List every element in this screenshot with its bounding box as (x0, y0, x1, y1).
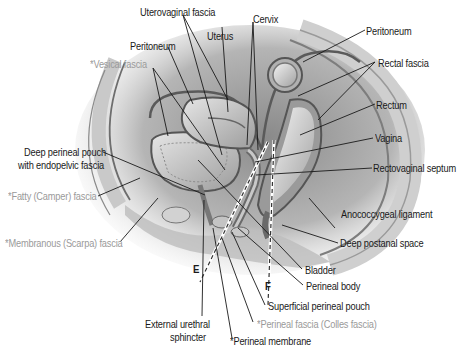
label-uterus: Uterus (207, 30, 233, 42)
diagram-stage: Uterovaginal fascia Cervix Uterus Perito… (0, 0, 459, 354)
label-anococcygeal-ligament: Anococcygeal ligament (341, 208, 432, 220)
label-fatty-camper-fascia: *Fatty (Camper) fascia (8, 190, 97, 202)
label-membranous-scarpa-fascia: *Membranous (Scarpa) fascia (5, 237, 122, 249)
label-cervix: Cervix (253, 13, 278, 25)
label-rectal-fascia: Rectal fascia (378, 57, 429, 69)
label-vagina: Vagina (375, 132, 402, 144)
label-deep-postanal-space: Deep postanal space (340, 237, 423, 249)
label-perineal-membrane: *Perineal membrane (230, 335, 311, 347)
label-superficial-perineal-pouch: Superficial perineal pouch (268, 300, 370, 312)
label-perineal-body: Perineal body (306, 280, 360, 292)
label-bladder: Bladder (305, 264, 336, 276)
marker-e: E (193, 263, 199, 275)
label-sphincter: sphincter (170, 331, 206, 343)
marker-f: F (265, 280, 271, 292)
label-peritoneum-left: Peritoneum (130, 40, 175, 52)
anal-canal (265, 212, 268, 238)
sigmoid-cross-section (268, 58, 302, 92)
label-rectovaginal-septum: Rectovaginal septum (373, 162, 456, 174)
label-perineal-fascia-colles: *Perineal fascia (Colles fascia) (257, 318, 377, 330)
label-peritoneum-right: Peritoneum (366, 25, 411, 37)
label-endopelvic-fascia: with endopelvic fascia (18, 159, 104, 171)
label-deep-perineal-pouch: Deep perineal pouch (24, 146, 106, 158)
label-rectum: Rectum (376, 99, 407, 111)
label-uterovaginal-fascia: Uterovaginal fascia (140, 6, 215, 18)
label-external-urethral: External urethral (145, 318, 210, 330)
label-vesical-fascia: *Vesical fascia (90, 58, 147, 70)
anatomy-illustration (0, 0, 459, 354)
